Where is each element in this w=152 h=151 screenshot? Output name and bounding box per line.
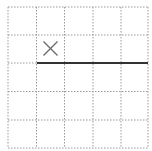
cross-mark-icon xyxy=(44,42,58,56)
dotted-grid-lines xyxy=(8,7,148,148)
grid-diagram xyxy=(0,0,152,151)
